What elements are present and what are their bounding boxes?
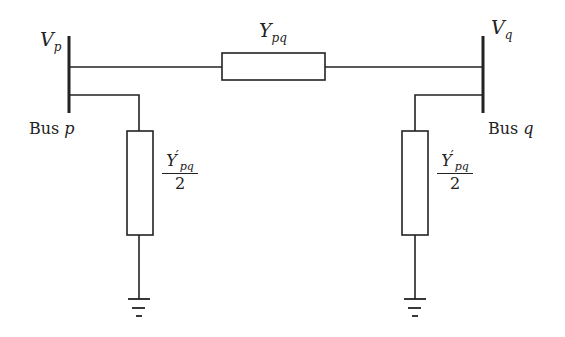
series-admittance-label: Ypq <box>259 19 287 41</box>
circuit-diagram <box>0 0 565 337</box>
voltage-label-q: Vq <box>491 16 512 38</box>
prime-mark: ′ <box>176 148 179 163</box>
fraction-numerator: Y′pq <box>437 151 473 174</box>
voltage-label-p: Vp <box>40 28 61 50</box>
ground-icon-right <box>404 299 426 316</box>
voltage-symbol: V <box>40 28 54 50</box>
fraction-numerator: Y′pq <box>162 151 198 174</box>
bus-label-var: q <box>523 119 533 138</box>
shunt-branch-right-wire <box>415 95 483 131</box>
shunt-branch-left-wire <box>69 95 139 131</box>
admittance-subscript: pq <box>180 160 194 173</box>
admittance-subscript: pq <box>455 160 469 173</box>
voltage-symbol: V <box>491 16 505 38</box>
shunt-admittance-box-left <box>127 131 153 235</box>
ground-icon-left <box>128 299 150 316</box>
shunt-admittance-label-left: Y′pq 2 <box>162 151 198 194</box>
bus-label-p: Bus p <box>29 119 75 138</box>
voltage-subscript: q <box>505 28 513 42</box>
bus-label-q: Bus q <box>488 119 534 138</box>
series-admittance-box <box>222 53 325 80</box>
voltage-subscript: p <box>54 40 62 54</box>
bus-label-text: Bus <box>29 119 64 138</box>
admittance-symbol: Y <box>259 19 272 41</box>
shunt-admittance-label-right: Y′pq 2 <box>437 151 473 194</box>
bus-label-var: p <box>64 119 74 138</box>
bus-label-text: Bus <box>488 119 523 138</box>
fraction-denominator: 2 <box>437 174 473 194</box>
prime-mark: ′ <box>451 148 454 163</box>
shunt-admittance-box-right <box>402 131 428 235</box>
fraction-denominator: 2 <box>162 174 198 194</box>
admittance-subscript: pq <box>272 31 287 45</box>
